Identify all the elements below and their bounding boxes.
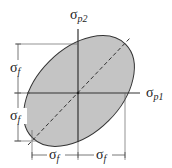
sigma-p1-label: σp1 xyxy=(146,85,164,102)
sigma-p2-label: σp2 xyxy=(70,7,88,24)
origin-point xyxy=(77,92,80,95)
failure-ellipse-diagram: σp2 σp1 σf σf σf σf xyxy=(0,0,172,168)
